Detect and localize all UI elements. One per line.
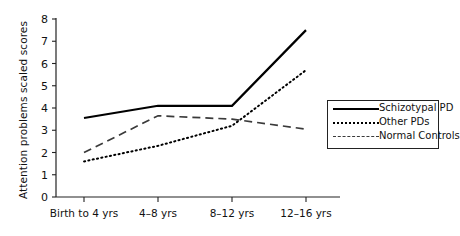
legend-line-swatch-icon: [333, 131, 379, 141]
y-axis-tick-label: 4: [34, 102, 48, 115]
y-axis-tick-label: 3: [34, 124, 48, 137]
legend-line-swatch-icon: [333, 103, 379, 113]
y-axis-tick-label: 0: [34, 191, 48, 204]
y-axis-tick-label: 5: [34, 79, 48, 92]
axes: [56, 18, 340, 197]
x-axis-tick-label: 12–16 yrs: [280, 207, 331, 219]
data-line-other-pds: [84, 70, 306, 161]
legend-item-label: Other PDs: [379, 115, 430, 129]
x-axis-ticks: [84, 197, 306, 202]
x-axis-tick-label: Birth to 4 yrs: [50, 207, 118, 219]
data-line-normal-controls: [84, 116, 306, 153]
y-axis-tick-label: 6: [34, 57, 48, 70]
data-series-group: [84, 30, 306, 161]
legend-item-label: Schizotypal PD: [379, 101, 453, 115]
x-axis-tick-label: 4–8 yrs: [139, 207, 177, 219]
legend: Schizotypal PDOther PDsNormal Controls: [327, 100, 439, 149]
legend-item: Other PDs: [328, 115, 438, 129]
legend-item: Schizotypal PD: [328, 101, 438, 115]
y-axis-tick-label: 1: [34, 168, 48, 181]
x-axis-tick-label: 8–12 yrs: [210, 207, 255, 219]
y-axis-tick-label: 7: [34, 35, 48, 48]
y-axis-tick-label: 2: [34, 146, 48, 159]
data-line-schizotypal-pd: [84, 30, 306, 118]
legend-line-swatch-icon: [333, 117, 379, 127]
legend-item-label: Normal Controls: [379, 129, 460, 143]
y-axis-tick-label: 8: [34, 13, 48, 26]
legend-item: Normal Controls: [328, 129, 438, 143]
